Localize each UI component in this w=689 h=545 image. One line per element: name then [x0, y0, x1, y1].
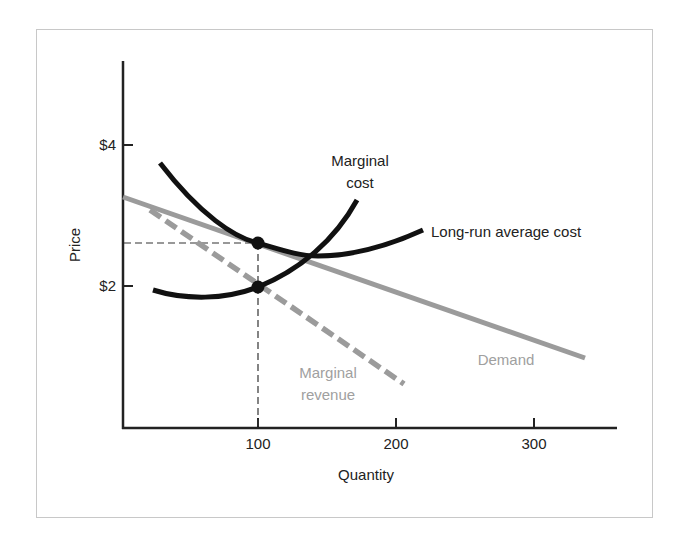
lrac-label: Long-run average cost: [431, 223, 582, 240]
mc-mr-point: [252, 281, 265, 294]
marginal-revenue-label-line2: revenue: [301, 386, 355, 403]
y-tick-label-4: $4: [99, 136, 116, 153]
lrac-point: [252, 237, 265, 250]
x-tick-label-300: 300: [521, 435, 546, 452]
x-tick-label-100: 100: [245, 435, 270, 452]
chart-canvas: $4 $2 100 200 300 Quantity Price Margina…: [0, 0, 689, 545]
y-tick-label-2: $2: [99, 277, 116, 294]
marginal-revenue-label-line1: Marginal: [299, 364, 357, 381]
demand-label: Demand: [478, 351, 535, 368]
demand-curve: [123, 197, 585, 358]
marginal-cost-label-line1: Marginal: [331, 152, 389, 169]
x-axis-title: Quantity: [338, 466, 394, 483]
marginal-cost-label-line2: cost: [346, 174, 374, 191]
y-axis-title: Price: [66, 228, 83, 262]
x-tick-label-200: 200: [383, 435, 408, 452]
